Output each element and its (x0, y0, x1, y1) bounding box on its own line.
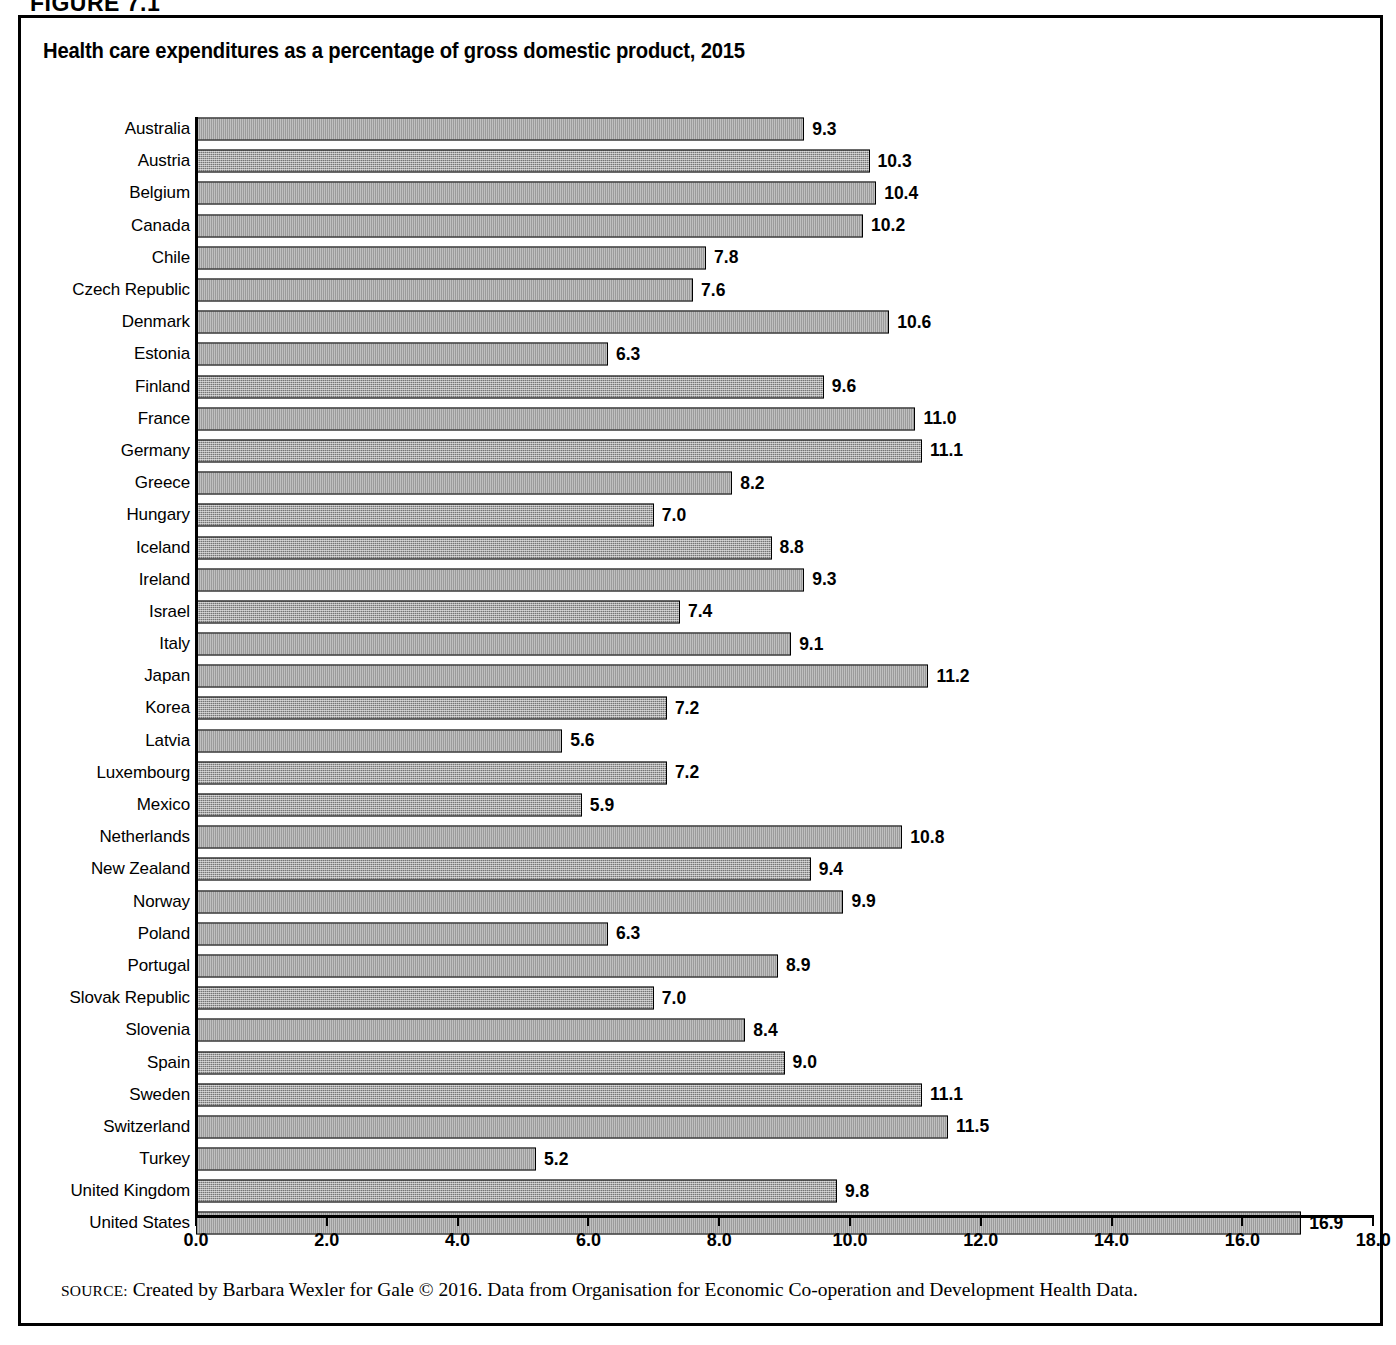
category-label: Czech Republic (72, 280, 190, 300)
bar-value-label: 7.2 (675, 762, 699, 783)
bar (196, 472, 732, 495)
bar (196, 761, 667, 784)
bar-container: 10.4 (196, 182, 876, 205)
source-keyword: SOURCE: (61, 1282, 128, 1299)
category-label: Germany (121, 441, 190, 461)
bar (196, 439, 922, 462)
bar-container: 9.3 (196, 118, 804, 141)
bar-container: 9.1 (196, 633, 791, 656)
bar-value-label: 9.9 (851, 891, 875, 912)
bar-container: 8.2 (196, 472, 732, 495)
chart-bar-row: Hungary7.0 (21, 499, 1380, 531)
category-label: Hungary (126, 505, 190, 525)
bar-container: 11.2 (196, 665, 928, 688)
y-axis-line (195, 117, 198, 1215)
category-label: Iceland (136, 538, 190, 558)
bar (196, 1115, 948, 1138)
chart-bar-row: Israel7.4 (21, 596, 1380, 628)
bar (196, 1083, 922, 1106)
bar (196, 118, 804, 141)
bar (196, 504, 654, 527)
x-axis-line (195, 1215, 1374, 1218)
chart-bar-row: Canada10.2 (21, 210, 1380, 242)
chart-bar-row: Austria10.3 (21, 145, 1380, 177)
bar-value-label: 7.2 (675, 698, 699, 719)
x-axis-tick-label: 16.0 (1225, 1230, 1260, 1251)
bar-value-label: 6.3 (616, 344, 640, 365)
chart-bar-row: Portugal8.9 (21, 950, 1380, 982)
chart-bar-row: United States16.9 (21, 1207, 1380, 1239)
bar-value-label: 9.1 (799, 634, 823, 655)
bar-value-label: 11.1 (930, 1084, 963, 1105)
x-axis-tick-label: 2.0 (314, 1230, 339, 1251)
category-label: Canada (131, 216, 190, 236)
bar-value-label: 6.3 (616, 923, 640, 944)
chart-bar-row: Finland9.6 (21, 371, 1380, 403)
category-label: Belgium (129, 183, 190, 203)
chart-bar-row: Greece8.2 (21, 467, 1380, 499)
bar (196, 794, 582, 817)
category-label: Slovenia (126, 1020, 190, 1040)
category-label: Italy (159, 634, 190, 654)
chart-bar-row: Japan11.2 (21, 660, 1380, 692)
category-label: Denmark (122, 312, 190, 332)
source-note: SOURCE: Created by Barbara Wexler for Ga… (61, 1279, 1381, 1301)
bar-value-label: 11.1 (930, 440, 963, 461)
category-label: Turkey (139, 1149, 190, 1169)
bar (196, 1019, 745, 1042)
chart-bar-row: Italy9.1 (21, 628, 1380, 660)
bar-container: 9.8 (196, 1180, 837, 1203)
bar-value-label: 8.4 (753, 1020, 777, 1041)
bar (196, 826, 902, 849)
bar (196, 890, 843, 913)
bar (196, 182, 876, 205)
category-label: Austria (138, 151, 190, 171)
bar-value-label: 10.8 (910, 827, 944, 848)
x-axis-tick (195, 1217, 197, 1226)
bar-value-label: 8.9 (786, 955, 810, 976)
chart-bar-row: Slovak Republic7.0 (21, 982, 1380, 1014)
chart-bar-row: Iceland8.8 (21, 531, 1380, 563)
chart-bar-row: Chile7.8 (21, 242, 1380, 274)
bar-value-label: 8.8 (780, 537, 804, 558)
bar-value-label: 10.3 (878, 151, 912, 172)
bar (196, 407, 915, 430)
bar (196, 954, 778, 977)
bar-value-label: 9.3 (812, 119, 836, 140)
x-axis-tick-label: 8.0 (707, 1230, 732, 1251)
bar-value-label: 7.6 (701, 280, 725, 301)
bar-container: 8.8 (196, 536, 772, 559)
chart-bar-row: Belgium10.4 (21, 177, 1380, 209)
chart-bar-row: Australia9.3 (21, 113, 1380, 145)
bar (196, 150, 870, 173)
bar-value-label: 8.2 (740, 473, 764, 494)
x-axis-tick (980, 1217, 982, 1226)
bar-container: 7.0 (196, 987, 654, 1010)
bar-value-label: 7.8 (714, 247, 738, 268)
bar-value-label: 7.0 (662, 505, 686, 526)
bar-value-label: 10.2 (871, 215, 905, 236)
bar (196, 600, 680, 623)
x-axis-tick (1111, 1217, 1113, 1226)
bar (196, 343, 608, 366)
bar-container: 11.0 (196, 407, 915, 430)
bar (196, 922, 608, 945)
category-label: Israel (149, 602, 190, 622)
bar-value-label: 9.3 (812, 569, 836, 590)
bar-container: 9.6 (196, 375, 824, 398)
chart-bar-row: Mexico5.9 (21, 789, 1380, 821)
bar-container: 10.8 (196, 826, 902, 849)
source-text: Created by Barbara Wexler for Gale © 201… (133, 1279, 1138, 1300)
bar-container: 11.1 (196, 439, 922, 462)
bar (196, 665, 928, 688)
chart-bar-row: Denmark10.6 (21, 306, 1380, 338)
bar (196, 375, 824, 398)
x-axis-tick (718, 1217, 720, 1226)
x-axis-tick-label: 6.0 (576, 1230, 601, 1251)
chart-bar-row: Luxembourg7.2 (21, 757, 1380, 789)
category-label: Poland (138, 924, 190, 944)
category-label: Latvia (145, 731, 190, 751)
bar (196, 311, 889, 334)
bar (196, 1051, 785, 1074)
x-axis-tick-label: 12.0 (963, 1230, 998, 1251)
